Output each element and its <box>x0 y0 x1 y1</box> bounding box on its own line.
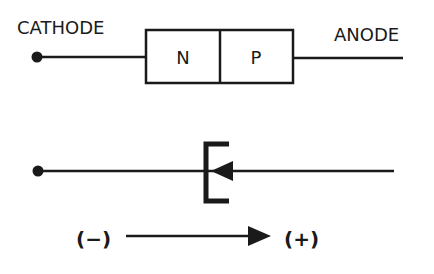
p-region-label: P <box>251 47 262 68</box>
pn-junction-diagram: CATHODE ANODE N P <box>17 17 403 83</box>
arrow-right-icon <box>248 226 271 246</box>
cathode-label: CATHODE <box>17 17 104 38</box>
negative-polarity-label: (−) <box>76 227 111 251</box>
anode-label: ANODE <box>334 24 399 45</box>
polarity-indicator: (−) (+) <box>76 226 319 251</box>
diode-symbol-diagram <box>33 144 395 201</box>
anode-triangle-icon <box>211 161 233 181</box>
diode-diagram: CATHODE ANODE N P (−) (+) <box>0 0 434 274</box>
n-region-label: N <box>176 47 189 68</box>
positive-polarity-label: (+) <box>284 227 319 251</box>
